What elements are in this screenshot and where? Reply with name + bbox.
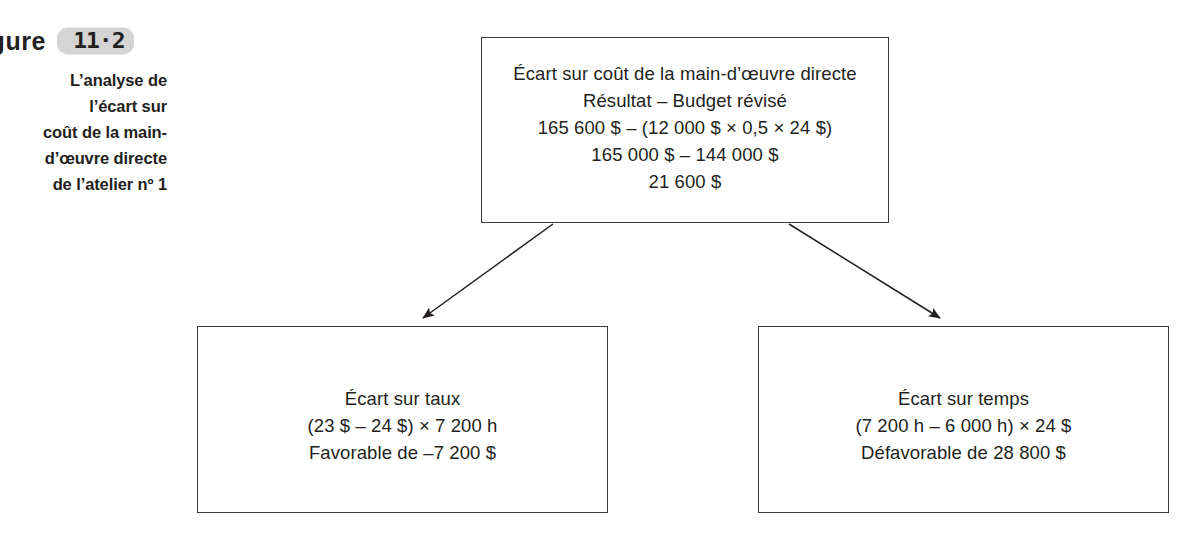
node-top-line-1: Écart sur coût de la main-d’œuvre direct…: [513, 60, 856, 87]
figure-caption-block: igure 11·2 L’analyse de l’écart sur coût…: [0, 26, 167, 197]
figure-label-row: igure 11·2: [0, 26, 167, 56]
node-right-line-3: Défavorable de 28 800 $: [861, 439, 1066, 466]
node-left-line-2: (23 $ – 24 $) × 7 200 h: [307, 412, 497, 439]
caption-line-2: l’écart sur: [0, 94, 167, 120]
node-top-line-4: 165 000 $ – 144 000 $: [591, 141, 778, 168]
node-right-line-1: Écart sur temps: [898, 385, 1029, 412]
figure-number-badge: 11·2: [57, 27, 133, 54]
node-top-line-2: Résultat – Budget révisé: [583, 87, 787, 114]
node-box-ecart-sur-taux: Écart sur taux (23 $ – 24 $) × 7 200 h F…: [197, 326, 608, 513]
figure-caption-text: L’analyse de l’écart sur coût de la main…: [0, 68, 167, 197]
figure-root: igure 11·2 L’analyse de l’écart sur coût…: [0, 0, 1199, 537]
node-left-line-1: Écart sur taux: [345, 385, 461, 412]
caption-line-4: d’œuvre directe: [0, 146, 167, 172]
node-top-line-5: 21 600 $: [649, 168, 722, 195]
caption-line-5: de l’atelier nº 1: [0, 172, 167, 198]
node-right-line-2: (7 200 h – 6 000 h) × 24 $: [855, 412, 1071, 439]
arrow-top-to-left: [423, 224, 553, 318]
node-box-ecart-sur-cout-main-doeuvre-directe: Écart sur coût de la main-d’œuvre direct…: [481, 37, 889, 223]
node-left-line-3: Favorable de –7 200 $: [309, 439, 496, 466]
node-box-ecart-sur-temps: Écart sur temps (7 200 h – 6 000 h) × 24…: [758, 326, 1169, 513]
arrow-top-to-right: [789, 224, 940, 318]
node-top-line-3: 165 600 $ – (12 000 $ × 0,5 × 24 $): [538, 114, 833, 141]
caption-line-1: L’analyse de: [0, 68, 167, 94]
caption-line-3: coût de la main-: [0, 120, 167, 146]
figure-label-text: igure: [0, 29, 46, 54]
